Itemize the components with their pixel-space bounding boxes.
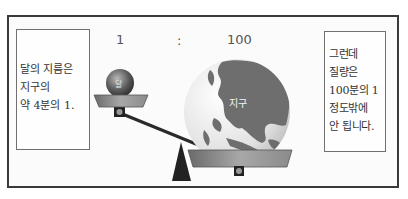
moon-label: 달 xyxy=(115,80,123,89)
fulcrum-triangle xyxy=(172,142,191,181)
moon-ball: 달 xyxy=(106,69,134,97)
right-pan xyxy=(188,150,292,167)
earth-globe: 지구 xyxy=(184,59,290,165)
earth-label: 지구 xyxy=(229,98,247,109)
left-pan xyxy=(94,95,148,107)
balance-scale-illustration: 지구 달 xyxy=(0,0,408,199)
